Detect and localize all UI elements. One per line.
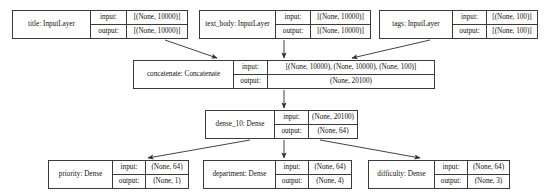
layer-output-label-dense_10: output: xyxy=(275,125,309,139)
layer-output-label-priority: output: xyxy=(113,175,146,189)
layer-input-shape-title: [(None, 10000)] xyxy=(127,11,187,24)
layer-input-row-dense_10: input:(None, 20100) xyxy=(275,111,357,125)
edge-tags-to-concatenate xyxy=(352,40,430,58)
layer-io-table-text_body: input:[(None, 10000)]output:[(None, 1000… xyxy=(276,11,370,38)
layer-node-tags[interactable]: tags: InputLayerinput:[(None, 100)]outpu… xyxy=(379,10,538,39)
layer-input-shape-text_body: [(None, 10000)] xyxy=(311,11,370,24)
layer-input-row-concatenate: input:[(None, 10000), (None, 10000), (No… xyxy=(234,61,434,75)
layer-output-label-title: output: xyxy=(91,25,127,39)
layer-output-shape-department: (None, 4) xyxy=(309,175,351,189)
layer-input-label-difficulty: input: xyxy=(435,161,468,174)
layer-input-shape-priority: (None, 64) xyxy=(146,161,188,174)
layer-input-shape-concatenate: [(None, 10000), (None, 10000), (None, 10… xyxy=(268,61,434,74)
layer-input-label-priority: input: xyxy=(113,161,146,174)
layer-io-table-difficulty: input:(None, 64)output:(None, 3) xyxy=(435,161,509,188)
layer-output-label-text_body: output: xyxy=(276,25,311,39)
layer-input-row-tags: input:[(None, 100)] xyxy=(453,11,537,25)
layer-output-shape-title: [(None, 10000)] xyxy=(127,25,187,39)
layer-output-row-priority: output:(None, 1) xyxy=(113,175,188,189)
layer-output-row-tags: output:[(None, 100)] xyxy=(453,25,537,39)
layer-output-row-concatenate: output:(None, 20100) xyxy=(234,75,434,89)
layer-input-label-dense_10: input: xyxy=(275,111,309,124)
layer-title-tags: tags: InputLayer xyxy=(380,11,453,38)
layer-output-shape-concatenate: (None, 20100) xyxy=(268,75,434,89)
layer-input-label-tags: input: xyxy=(453,11,487,24)
layer-output-label-difficulty: output: xyxy=(435,175,468,189)
layer-input-label-text_body: input: xyxy=(276,11,311,24)
layer-output-row-title: output:[(None, 10000)] xyxy=(91,25,187,39)
layer-input-row-title: input:[(None, 10000)] xyxy=(91,11,187,25)
layer-output-row-dense_10: output:(None, 64) xyxy=(275,125,357,139)
layer-input-label-department: input: xyxy=(276,161,309,174)
layer-input-shape-dense_10: (None, 20100) xyxy=(309,111,357,124)
layer-output-row-text_body: output:[(None, 10000)] xyxy=(276,25,370,39)
layer-title-dense_10: dense_10: Dense xyxy=(206,111,275,138)
layer-io-table-dense_10: input:(None, 20100)output:(None, 64) xyxy=(275,111,357,138)
layer-title-text_body: text_body: InputLayer xyxy=(200,11,276,38)
layer-io-table-tags: input:[(None, 100)]output:[(None, 100)] xyxy=(453,11,537,38)
layer-output-row-department: output:(None, 4) xyxy=(276,175,351,189)
layer-title-priority: priority: Dense xyxy=(49,161,113,188)
layer-node-difficulty[interactable]: difficulty: Denseinput:(None, 64)output:… xyxy=(368,160,510,189)
model-diagram-canvas: title: InputLayerinput:[(None, 10000)]ou… xyxy=(0,0,547,195)
layer-io-table-concatenate: input:[(None, 10000), (None, 10000), (No… xyxy=(234,61,434,88)
layer-output-shape-text_body: [(None, 10000)] xyxy=(311,25,370,39)
layer-output-label-department: output: xyxy=(276,175,309,189)
layer-io-table-title: input:[(None, 10000)]output:[(None, 1000… xyxy=(91,11,187,38)
layer-title-title: title: InputLayer xyxy=(13,11,91,38)
layer-node-concatenate[interactable]: concatenate: Concatenateinput:[(None, 10… xyxy=(133,60,435,89)
layer-title-difficulty: difficulty: Dense xyxy=(369,161,435,188)
edge-dense_10-to-priority xyxy=(148,140,250,158)
layer-output-label-concatenate: output: xyxy=(234,75,268,89)
layer-node-dense_10[interactable]: dense_10: Denseinput:(None, 20100)output… xyxy=(205,110,358,139)
layer-input-row-priority: input:(None, 64) xyxy=(113,161,188,175)
layer-input-label-concatenate: input: xyxy=(234,61,268,74)
edge-dense_10-to-difficulty xyxy=(320,140,420,158)
layer-input-row-difficulty: input:(None, 64) xyxy=(435,161,509,175)
layer-input-label-title: input: xyxy=(91,11,127,24)
layer-output-shape-tags: [(None, 100)] xyxy=(487,25,537,39)
layer-node-title[interactable]: title: InputLayerinput:[(None, 10000)]ou… xyxy=(12,10,188,39)
layer-input-shape-tags: [(None, 100)] xyxy=(487,11,537,24)
layer-io-table-priority: input:(None, 64)output:(None, 1) xyxy=(113,161,188,188)
layer-title-concatenate: concatenate: Concatenate xyxy=(134,61,234,88)
layer-node-priority[interactable]: priority: Denseinput:(None, 64)output:(N… xyxy=(48,160,189,189)
layer-title-department: department: Dense xyxy=(204,161,276,188)
layer-input-row-text_body: input:[(None, 10000)] xyxy=(276,11,370,25)
layer-output-shape-dense_10: (None, 64) xyxy=(309,125,357,139)
layer-output-shape-difficulty: (None, 3) xyxy=(468,175,509,189)
layer-input-shape-department: (None, 64) xyxy=(309,161,351,174)
layer-output-label-tags: output: xyxy=(453,25,487,39)
layer-output-shape-priority: (None, 1) xyxy=(146,175,188,189)
layer-input-shape-difficulty: (None, 64) xyxy=(468,161,509,174)
layer-node-text_body[interactable]: text_body: InputLayerinput:[(None, 10000… xyxy=(199,10,371,39)
layer-input-row-department: input:(None, 64) xyxy=(276,161,351,175)
layer-io-table-department: input:(None, 64)output:(None, 4) xyxy=(276,161,351,188)
edge-title-to-concatenate xyxy=(165,40,217,58)
layer-output-row-difficulty: output:(None, 3) xyxy=(435,175,509,189)
layer-node-department[interactable]: department: Denseinput:(None, 64)output:… xyxy=(203,160,352,189)
